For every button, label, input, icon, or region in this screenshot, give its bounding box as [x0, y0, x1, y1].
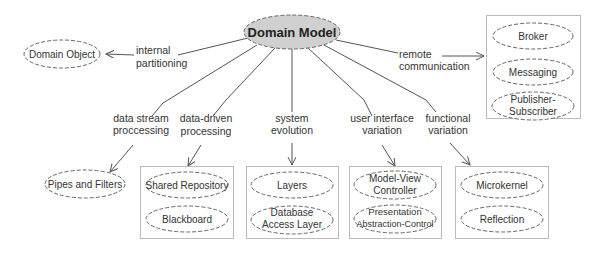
- edge-ui-variation-arrow: [382, 145, 395, 166]
- label-system-2: evolution: [271, 124, 313, 136]
- label-internal-1: internal: [136, 44, 170, 56]
- edge-internal-arrow: [106, 54, 134, 55]
- pubsub-label-1: Publisher-: [510, 94, 555, 105]
- shared-repository-label: Shared Repository: [146, 180, 229, 191]
- pipes-filters-label: Pipes and Filters: [48, 179, 122, 190]
- edge-ui-variation: [308, 48, 372, 116]
- label-datadriven-2: processing: [181, 125, 232, 137]
- label-system-1: system: [275, 112, 309, 124]
- mvc-label-1: Model-View: [369, 173, 422, 184]
- label-functional-1: functional: [426, 112, 471, 124]
- messaging-label: Messaging: [509, 67, 557, 78]
- label-internal-2: partitioning: [136, 57, 188, 69]
- edge-data-stream-arrow: [110, 145, 133, 172]
- edge-data-driven: [213, 48, 275, 116]
- layers-label: Layers: [277, 180, 307, 191]
- edge-remote-communication: [336, 40, 398, 53]
- domain-object-label: Domain Object: [29, 49, 95, 60]
- pattern-diagram: Domain Model internal partitioning remot…: [0, 0, 608, 254]
- reflection-label: Reflection: [480, 214, 524, 225]
- label-functional-2: variation: [428, 124, 468, 136]
- domain-model-label: Domain Model: [248, 25, 337, 40]
- label-ui-2: variation: [362, 124, 402, 136]
- label-ui-1: user interface: [350, 112, 414, 124]
- label-datadriven-1: data-driven: [180, 112, 233, 124]
- microkernel-label: Microkernel: [476, 180, 528, 191]
- edge-data-driven-arrow: [188, 145, 201, 166]
- pubsub-label-2: Subscriber: [509, 106, 557, 117]
- edge-internal-partitioning: [178, 38, 248, 55]
- dal-label-1: Database: [271, 207, 314, 218]
- dal-label-2: Access Layer: [262, 219, 323, 230]
- pac-label-2: Abstraction-Control: [356, 219, 433, 229]
- mvc-label-2: Controller: [373, 185, 417, 196]
- pac-label-1: Presentation: [368, 206, 421, 217]
- edge-functional-variation-arrow: [450, 143, 470, 165]
- label-remote-1: remote: [399, 48, 432, 60]
- broker-label: Broker: [518, 31, 548, 42]
- blackboard-label: Blackboard: [162, 214, 212, 225]
- label-datastream-2: proccessing: [113, 124, 169, 136]
- label-remote-2: communication: [399, 60, 470, 72]
- label-datastream-1: data stream: [113, 112, 169, 124]
